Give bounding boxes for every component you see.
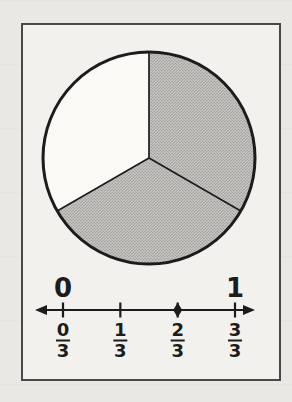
fraction-denominator: 3 — [171, 340, 184, 361]
fraction-denominator: 3 — [57, 340, 70, 361]
pie-chart — [43, 52, 255, 264]
marked-point-2-3 — [173, 303, 182, 318]
numberline-arrowhead-left-icon — [35, 305, 47, 315]
fraction-numerator: 0 — [57, 319, 70, 340]
scanned-page-background: 0103132333 — [0, 0, 292, 402]
fraction-denominator: 3 — [229, 340, 242, 361]
figure-frame: 0103132333 — [21, 23, 281, 381]
fraction-denominator: 3 — [114, 340, 127, 361]
fraction-numerator: 2 — [171, 319, 184, 340]
fraction-numerator: 3 — [229, 319, 242, 340]
fraction-numerator: 1 — [114, 319, 127, 340]
number-line: 0103132333 — [35, 273, 255, 361]
fraction-figure: 0103132333 — [23, 25, 279, 379]
numberline-label-1: 1 — [226, 273, 244, 303]
numberline-arrowhead-right-icon — [243, 305, 255, 315]
numberline-label-0: 0 — [54, 273, 72, 303]
